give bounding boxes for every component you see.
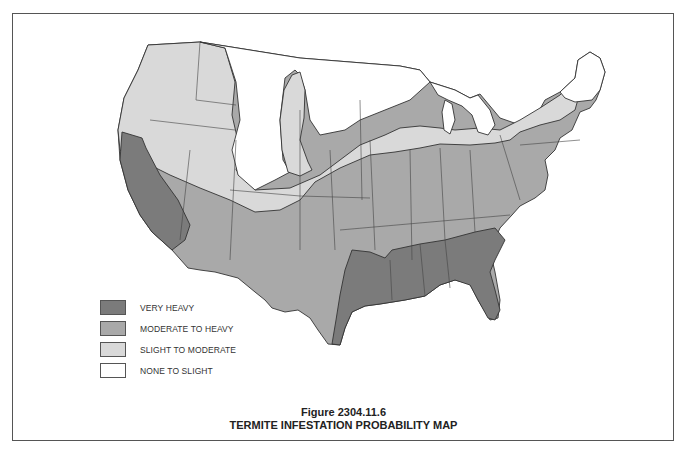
- figure-title: TERMITE INFESTATION PROBABILITY MAP: [0, 419, 687, 431]
- legend-swatch-very-heavy: [100, 300, 126, 315]
- legend-item-very-heavy: VERY HEAVY: [100, 297, 236, 318]
- legend-label: VERY HEAVY: [140, 303, 194, 313]
- legend-item-slight-to-moderate: SLIGHT TO MODERATE: [100, 339, 236, 360]
- us-termite-map: [0, 0, 687, 458]
- legend-swatch-none-to-slight: [100, 363, 126, 378]
- figure-number: Figure 2304.11.6: [0, 406, 687, 418]
- map-legend: VERY HEAVY MODERATE TO HEAVY SLIGHT TO M…: [100, 297, 236, 381]
- legend-label: NONE TO SLIGHT: [140, 366, 213, 376]
- legend-swatch-slight-to-moderate: [100, 342, 126, 357]
- legend-swatch-moderate-to-heavy: [100, 321, 126, 336]
- legend-label: SLIGHT TO MODERATE: [140, 345, 236, 355]
- legend-item-moderate-to-heavy: MODERATE TO HEAVY: [100, 318, 236, 339]
- legend-label: MODERATE TO HEAVY: [140, 324, 234, 334]
- legend-item-none-to-slight: NONE TO SLIGHT: [100, 360, 236, 381]
